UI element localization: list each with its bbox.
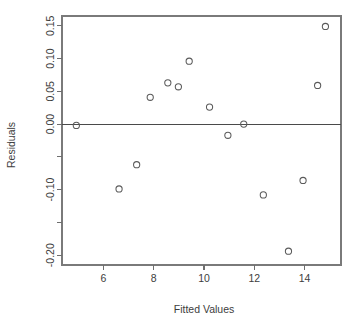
y-tick-label: 0.00: [44, 114, 56, 135]
y-tick-label: -0.20: [44, 243, 56, 267]
y-tick-label: 0.05: [44, 81, 56, 102]
chart-canvas: 68101214 0.150.100.050.00-0.10-0.20 Fitt…: [0, 0, 355, 324]
data-point: [285, 248, 291, 254]
y-axis-tick-labels: 0.150.100.050.00-0.10-0.20: [44, 15, 56, 267]
x-tick-label: 10: [198, 272, 210, 284]
y-tick-label: 0.15: [44, 15, 56, 36]
data-point: [315, 82, 321, 88]
x-axis-ticks: [103, 265, 304, 270]
data-point: [165, 80, 171, 86]
y-axis-title: Residuals: [5, 122, 17, 168]
data-point: [73, 122, 79, 128]
plot-frame: [62, 16, 341, 265]
y-tick-label: -0.10: [44, 178, 56, 202]
x-axis-title: Fitted Values: [174, 303, 235, 315]
data-point: [225, 132, 231, 138]
data-point: [260, 192, 266, 198]
data-point: [322, 23, 328, 29]
y-tick-label: 0.10: [44, 48, 56, 69]
y-axis-ticks: [57, 26, 62, 255]
residual-plot: 68101214 0.150.100.050.00-0.10-0.20 Fitt…: [0, 0, 355, 324]
data-point: [186, 58, 192, 64]
x-tick-label: 6: [101, 272, 107, 284]
data-point: [206, 104, 212, 110]
x-axis-tick-labels: 68101214: [101, 272, 311, 284]
x-tick-label: 14: [299, 272, 311, 284]
data-point: [147, 94, 153, 100]
data-point: [116, 186, 122, 192]
x-tick-label: 12: [248, 272, 260, 284]
x-tick-label: 8: [151, 272, 157, 284]
data-point: [175, 84, 181, 90]
data-points: [73, 23, 328, 254]
data-point: [134, 162, 140, 168]
data-point: [300, 177, 306, 183]
